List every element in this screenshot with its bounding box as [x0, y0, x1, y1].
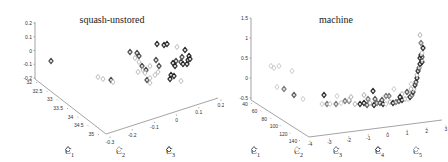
data-point [384, 93, 388, 98]
data-point [148, 63, 152, 68]
data-point [353, 101, 357, 106]
tick-label: 1 [245, 35, 248, 41]
data-point [405, 89, 409, 94]
chart-machine: machine 1.510.50-0.5406080100120140-4-3-… [224, 0, 448, 162]
tick-label: 33 [47, 96, 53, 102]
tick-label: 0.1 [195, 109, 202, 115]
diamond-marker-icon [65, 146, 70, 152]
data-point [384, 101, 388, 106]
tick-label: 100 [270, 123, 279, 129]
data-point [154, 57, 158, 62]
tick-label: 32.5 [33, 88, 43, 94]
tick-label: 0 [386, 132, 389, 138]
axis-ticks: 0.20.10-0.1-0.23232.53333.53434.535-0.3-… [23, 20, 224, 145]
tick-label: 1.5 [241, 15, 248, 21]
tick-label: 80 [261, 116, 267, 122]
tick-label: 40 [242, 101, 248, 107]
tick-label: 34 [68, 114, 74, 120]
data-point [179, 78, 183, 83]
data-point [392, 86, 396, 91]
data-point [334, 101, 338, 106]
tick-label: 35 [88, 131, 94, 137]
tick-label: 33.5 [53, 105, 63, 111]
tick-label: -2 [347, 137, 352, 143]
data-point [137, 59, 141, 64]
data-point [128, 49, 132, 54]
diamond-marker-icon [375, 146, 380, 152]
data-point [371, 88, 375, 93]
diamond-marker-icon [413, 146, 418, 152]
tick-label: 60 [252, 108, 258, 114]
tick-label: 0 [29, 48, 32, 54]
data-point [101, 76, 105, 81]
tick-label: 0 [245, 75, 248, 81]
tick-label: -0.1 [23, 61, 32, 67]
tick-label: -0.2 [128, 132, 137, 138]
data-point [320, 101, 324, 106]
data-point [328, 101, 332, 106]
tick-label: 0.2 [25, 20, 32, 26]
data-points [269, 32, 425, 107]
tick-label: 32 [26, 79, 32, 85]
legend: C1C2C3C4C5 [224, 146, 448, 160]
diamond-marker-icon [333, 146, 338, 152]
data-point [292, 92, 296, 97]
diamond-marker-icon [166, 146, 171, 152]
data-point [362, 92, 366, 97]
tick-label: 120 [279, 131, 288, 137]
data-points [49, 41, 192, 85]
legend-item-c3: C3 [333, 146, 342, 158]
diamond-marker-icon [251, 146, 256, 152]
legend-item-c1: C1 [65, 146, 74, 158]
tick-label: 1 [406, 130, 409, 136]
tick-label: 3 [445, 126, 448, 132]
plot-area: 1.510.50-0.5406080100120140-4-3-2-10123 [224, 0, 448, 162]
plot-area: 0.20.10-0.1-0.23232.53333.53434.535-0.3-… [0, 0, 224, 162]
legend-item-c5: C5 [413, 146, 422, 158]
data-point [277, 63, 281, 68]
legend-item-c2: C2 [116, 146, 125, 158]
data-point [322, 92, 326, 97]
tick-label: 0.5 [241, 55, 248, 61]
data-point [157, 63, 161, 68]
chart-squash-unstored: squash-unstored 0.20.10-0.1-0.23232.5333… [0, 0, 224, 162]
data-point [421, 45, 425, 50]
data-point [358, 101, 362, 106]
data-point [180, 54, 184, 59]
data-point [183, 47, 187, 52]
data-point [335, 93, 339, 98]
diamond-marker-icon [294, 146, 299, 152]
tick-label: 0 [175, 117, 178, 123]
data-point [175, 44, 179, 49]
data-point [275, 84, 279, 89]
tick-label: -0.3 [106, 139, 115, 145]
tick-label: 140 [289, 138, 298, 144]
legend-item-c3: C3 [166, 146, 175, 158]
legend: C1C2C3 [0, 146, 224, 160]
tick-label: 34.5 [74, 122, 84, 128]
tick-label: -3 [327, 139, 332, 145]
data-point [301, 96, 305, 101]
data-point [418, 32, 422, 37]
data-point [419, 40, 423, 45]
legend-item-c2: C2 [294, 146, 303, 158]
tick-label: -0.1 [150, 124, 159, 130]
diamond-marker-icon [116, 146, 121, 152]
data-point [96, 74, 100, 79]
tick-label: 0.1 [25, 34, 32, 40]
data-point [49, 58, 53, 63]
tick-label: 2 [425, 128, 428, 134]
data-point [155, 41, 159, 46]
data-point [409, 81, 413, 86]
data-point [343, 98, 347, 103]
data-point [290, 68, 294, 73]
data-point [136, 69, 140, 74]
legend-item-c1: C1 [251, 146, 260, 158]
data-point [282, 86, 286, 91]
tick-label: -1 [366, 135, 371, 141]
legend-item-c4: C4 [375, 146, 384, 158]
